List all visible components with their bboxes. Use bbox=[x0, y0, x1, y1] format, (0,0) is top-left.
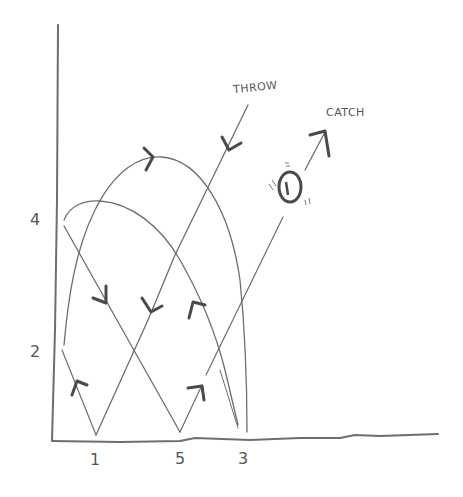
juggling-diagram bbox=[0, 0, 463, 497]
line-2-to-1 bbox=[62, 350, 96, 435]
line-ball-to-catch bbox=[305, 132, 325, 170]
arrow-mid-down-icon bbox=[142, 298, 162, 312]
x-axis bbox=[52, 434, 438, 442]
x-tick-5: 5 bbox=[175, 449, 185, 468]
catch-label: CATCH bbox=[326, 106, 365, 119]
arrow-right-up-icon bbox=[189, 302, 205, 318]
y-tick-4: 4 bbox=[30, 210, 40, 229]
x-tick-3: 3 bbox=[238, 449, 248, 468]
y-tick-2: 2 bbox=[30, 342, 40, 361]
arc-big bbox=[64, 157, 247, 432]
ball-icon bbox=[269, 163, 310, 205]
line-4-to-5 bbox=[64, 226, 180, 432]
y-axis bbox=[52, 25, 58, 440]
x-tick-1: 1 bbox=[90, 450, 100, 469]
